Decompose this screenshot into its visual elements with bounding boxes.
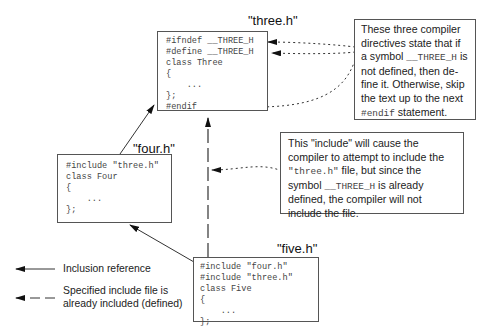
code-line: { bbox=[166, 69, 171, 79]
include-note: This "include" will cause the compiler t… bbox=[280, 132, 464, 214]
five-h-title: "five.h" bbox=[277, 241, 317, 256]
code-line: }; bbox=[200, 317, 210, 327]
legend-solid-label: Inclusion reference bbox=[63, 262, 151, 275]
note-keyword: #endif bbox=[361, 108, 395, 119]
note-text: statement. bbox=[395, 106, 447, 118]
three-h-box: #ifndef __THREE_H #define __THREE_H clas… bbox=[157, 31, 268, 111]
code-line: { bbox=[66, 183, 71, 193]
code-line: }; bbox=[166, 91, 176, 101]
code-line: class Five bbox=[200, 284, 252, 294]
three-h-code: #ifndef __THREE_H #define __THREE_H clas… bbox=[158, 32, 267, 113]
code-line: class Four bbox=[66, 172, 118, 182]
note-filename: "three.h" bbox=[288, 166, 339, 177]
code-line: ... bbox=[200, 306, 236, 316]
code-line: class Three bbox=[166, 58, 223, 68]
four-h-code: #include "three.h" class Four { ... }; bbox=[58, 155, 171, 216]
code-line: ... bbox=[66, 194, 102, 204]
note-symbol: __THREE_H bbox=[406, 52, 457, 63]
define-pointer bbox=[272, 52, 355, 54]
three-h-title: "three.h" bbox=[248, 13, 298, 28]
code-line: #include "three.h" bbox=[66, 161, 159, 171]
directives-note: These three compiler directives state th… bbox=[354, 19, 476, 120]
code-line: ... bbox=[166, 80, 202, 90]
code-line: }; bbox=[66, 205, 76, 215]
ifndef-pointer bbox=[268, 42, 355, 47]
four-h-box: #include "three.h" class Four { ... }; bbox=[57, 154, 172, 223]
note-text: This "include" will cause the compiler t… bbox=[288, 137, 444, 163]
code-line: #endif bbox=[166, 102, 197, 112]
note-symbol: __THREE_H bbox=[325, 181, 376, 192]
include-pointer bbox=[212, 167, 282, 171]
code-line: #ifndef __THREE_H bbox=[166, 36, 254, 46]
five-h-code: #include "four.h" #include "three.h" cla… bbox=[194, 258, 318, 328]
five-to-four-arrow bbox=[130, 225, 194, 262]
code-line: #define __THREE_H bbox=[166, 47, 254, 57]
code-line: { bbox=[200, 295, 205, 305]
five-h-box: #include "four.h" #include "three.h" cla… bbox=[193, 257, 319, 322]
legend-dashed-label: Specified include file is already includ… bbox=[63, 284, 188, 310]
code-line: #include "four.h" bbox=[200, 262, 288, 272]
code-line: #include "three.h" bbox=[200, 273, 293, 283]
